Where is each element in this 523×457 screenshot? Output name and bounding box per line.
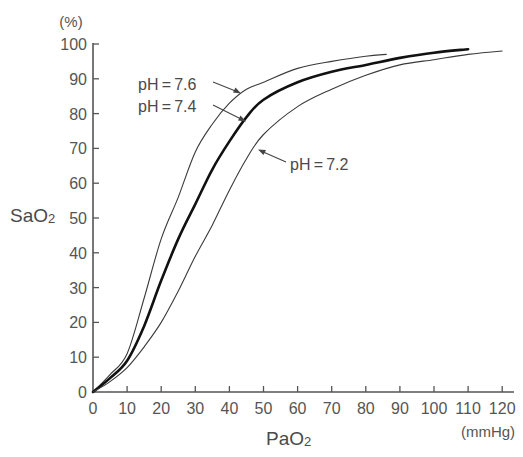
annotation-label-ph-7-4: pH = 7.4 xyxy=(138,98,197,115)
x-tick-label: 0 xyxy=(89,400,98,417)
y-axis-unit: (%) xyxy=(59,13,82,30)
y-tick-label: 60 xyxy=(69,175,87,192)
x-axis-title-main: PaO xyxy=(266,428,304,449)
y-axis-title: SaO2 xyxy=(10,205,55,226)
y-axis-title-main: SaO xyxy=(10,205,48,226)
y-tick-label: 90 xyxy=(69,71,87,88)
y-tick-label: 10 xyxy=(69,349,87,366)
annotation-label-ph-7-2: pH = 7.2 xyxy=(290,156,349,173)
arrowhead-ph-7-2-icon xyxy=(258,150,266,156)
x-tick-label: 40 xyxy=(221,400,239,417)
x-tick-label: 50 xyxy=(255,400,273,417)
annotation-label-ph-7-6: pH = 7.6 xyxy=(138,76,197,93)
x-axis-ticks: 0102030405060708090100110120 xyxy=(89,386,516,417)
x-tick-label: 20 xyxy=(152,400,170,417)
axes xyxy=(93,43,514,392)
x-axis-title-subscript: 2 xyxy=(304,434,311,449)
arrowhead-ph-7-6-icon xyxy=(233,88,241,94)
oxygen-dissociation-chart: (%) SaO2 PaO2 (mmHg) 0102030405060708090… xyxy=(0,0,523,457)
annotation-ph-7-4: pH = 7.4 xyxy=(138,98,246,122)
y-tick-label: 20 xyxy=(69,314,87,331)
x-tick-label: 80 xyxy=(357,400,375,417)
x-tick-label: 100 xyxy=(421,400,448,417)
x-axis-title: PaO2 xyxy=(266,428,311,449)
x-tick-label: 60 xyxy=(289,400,307,417)
y-axis-title-subscript: 2 xyxy=(48,211,55,226)
x-axis-unit: (mmHg) xyxy=(461,423,515,440)
y-tick-label: 30 xyxy=(69,280,87,297)
x-tick-label: 120 xyxy=(489,400,516,417)
x-tick-label: 30 xyxy=(186,400,204,417)
y-tick-label: 80 xyxy=(69,106,87,123)
annotation-ph-7-2: pH = 7.2 xyxy=(258,150,349,174)
x-tick-label: 110 xyxy=(455,400,481,417)
annotation-ph-7-6: pH = 7.6 xyxy=(138,76,241,94)
x-tick-label: 90 xyxy=(391,400,409,417)
y-tick-label: 40 xyxy=(69,245,87,262)
y-tick-label: 0 xyxy=(78,384,87,401)
x-tick-label: 70 xyxy=(323,400,341,417)
x-tick-label: 10 xyxy=(118,400,136,417)
arrow-ph-7-2 xyxy=(261,151,286,162)
y-tick-label: 100 xyxy=(60,36,87,53)
y-tick-label: 70 xyxy=(69,140,87,157)
y-tick-label: 50 xyxy=(69,210,87,227)
